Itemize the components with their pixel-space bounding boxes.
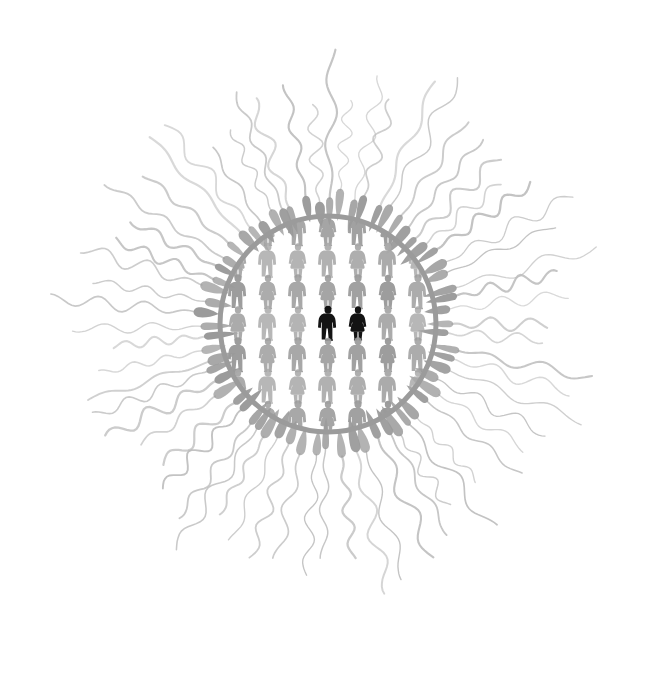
conception-illustration <box>0 0 658 686</box>
illustration-artboard: A large circle filled with small gray hu… <box>0 0 658 686</box>
